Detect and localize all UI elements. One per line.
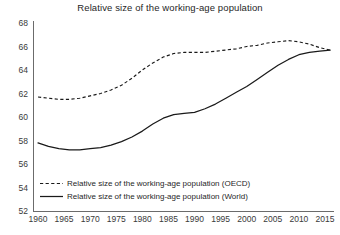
series-line-world xyxy=(38,50,330,150)
y-tick-label: 62 xyxy=(4,90,28,99)
y-tick-label: 68 xyxy=(4,19,28,28)
series-line-oecd xyxy=(38,41,330,100)
legend-label-oecd: Relative size of the working-age populat… xyxy=(67,180,250,188)
y-tick-label: 64 xyxy=(4,66,28,75)
y-tick-label: 58 xyxy=(4,137,28,146)
chart-figure: Relative size of the working-age populat… xyxy=(0,0,340,235)
y-tick-label: 60 xyxy=(4,113,28,122)
y-tick-label: 56 xyxy=(4,160,28,169)
legend-label-world: Relative size of the working-age populat… xyxy=(67,193,248,201)
x-tick-label: 2015 xyxy=(310,215,340,224)
y-tick-label: 54 xyxy=(4,184,28,193)
y-tick-label: 66 xyxy=(4,43,28,52)
